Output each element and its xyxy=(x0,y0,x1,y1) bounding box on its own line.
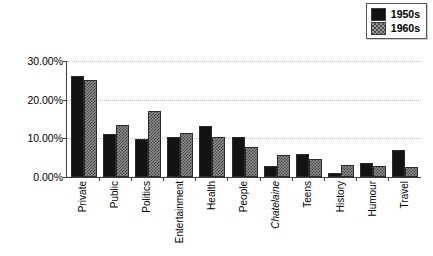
x-axis-label-travel: Travel xyxy=(400,181,410,208)
x-label-cell-history: History xyxy=(325,181,357,255)
bar-groups xyxy=(68,61,421,177)
x-axis-label-chatelaine: Chatelaine xyxy=(271,181,281,229)
bar-people-1960s xyxy=(245,147,258,177)
x-label-cell-health: Health xyxy=(196,181,228,255)
bar-public-1960s xyxy=(116,125,129,177)
x-axis-label-people: People xyxy=(239,181,249,212)
bar-group-private xyxy=(68,61,100,177)
x-axis-label-public: Public xyxy=(110,181,120,208)
y-tick-label-0: 0.00% xyxy=(3,171,63,183)
bar-group-teens xyxy=(293,61,325,177)
bar-health-1960s xyxy=(212,137,225,177)
bar-group-people xyxy=(228,61,260,177)
bar-group-history xyxy=(325,61,357,177)
bar-private-1960s xyxy=(84,80,97,177)
x-axis-label-teens: Teens xyxy=(303,181,313,208)
bar-travel-1960s xyxy=(405,167,418,177)
x-axis-label-history: History xyxy=(336,181,346,212)
bar-chart: 1950s 1960s 30.00% 20.00% 10.00% 0.00% xyxy=(0,0,433,256)
x-axis-label-private: Private xyxy=(78,181,88,212)
y-tick-label-30: 30.00% xyxy=(3,55,63,67)
x-axis-label-humour: Humour xyxy=(368,181,378,217)
bar-people-1950s xyxy=(232,137,245,177)
y-tick-label-20: 20.00% xyxy=(3,94,63,106)
y-tick-mark-20 xyxy=(63,100,67,101)
bar-travel-1950s xyxy=(392,150,405,177)
x-label-cell-travel: Travel xyxy=(389,181,421,255)
bar-private-1950s xyxy=(71,76,84,177)
x-label-cell-chatelaine: Chatelaine xyxy=(260,181,292,255)
bar-entertainment-1950s xyxy=(167,137,180,177)
bar-humour-1960s xyxy=(373,166,386,177)
x-label-cell-politics: Politics xyxy=(131,181,163,255)
bar-chatelaine-1950s xyxy=(264,166,277,177)
bar-entertainment-1960s xyxy=(180,133,193,177)
bar-teens-1960s xyxy=(309,159,322,177)
x-axis-labels: Private Public Politics Entertainment He… xyxy=(67,181,421,255)
x-label-cell-public: Public xyxy=(99,181,131,255)
x-axis-label-politics: Politics xyxy=(142,181,152,213)
bar-history-1960s xyxy=(341,165,354,177)
bar-group-health xyxy=(196,61,228,177)
x-axis-label-entertainment: Entertainment xyxy=(175,181,185,243)
bar-group-humour xyxy=(357,61,389,177)
bar-history-1950s xyxy=(328,173,341,177)
x-label-cell-private: Private xyxy=(67,181,99,255)
bar-group-travel xyxy=(389,61,421,177)
plot-area xyxy=(66,61,421,178)
bar-public-1950s xyxy=(103,134,116,177)
x-label-cell-teens: Teens xyxy=(292,181,324,255)
x-label-cell-people: People xyxy=(228,181,260,255)
bar-group-politics xyxy=(132,61,164,177)
bar-teens-1950s xyxy=(296,154,309,177)
bar-group-entertainment xyxy=(164,61,196,177)
bar-health-1950s xyxy=(199,126,212,177)
x-label-cell-humour: Humour xyxy=(357,181,389,255)
bar-chatelaine-1960s xyxy=(277,155,290,177)
bar-humour-1950s xyxy=(360,163,373,177)
bar-group-chatelaine xyxy=(261,61,293,177)
y-tick-mark-0 xyxy=(63,177,67,178)
y-tick-label-10: 10.00% xyxy=(3,132,63,144)
bar-politics-1960s xyxy=(148,111,161,177)
x-label-cell-entertainment: Entertainment xyxy=(164,181,196,255)
x-axis-label-health: Health xyxy=(207,181,217,210)
bar-group-public xyxy=(100,61,132,177)
y-tick-mark-30 xyxy=(63,61,67,62)
bar-politics-1950s xyxy=(135,139,148,177)
y-tick-mark-10 xyxy=(63,138,67,139)
